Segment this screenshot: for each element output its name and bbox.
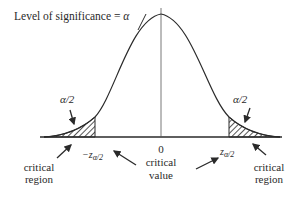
right-region-label-line2: region — [255, 173, 284, 185]
left-region-arrow — [57, 145, 71, 158]
left-critical-region-shading — [44, 117, 95, 137]
normal-curve — [44, 14, 280, 137]
neg-z-subscript: α/2 — [93, 153, 103, 162]
right-region-label-line1: critical — [254, 161, 285, 173]
left-region-label-line2: region — [25, 173, 54, 185]
left-area-arrow — [70, 110, 74, 124]
pos-z-subscript: α/2 — [224, 150, 234, 159]
neg-z-arrow — [114, 151, 136, 165]
z-critical-label: zα/2 — [219, 146, 234, 159]
right-region-arrow — [253, 144, 266, 155]
neg-z: −z — [82, 149, 93, 160]
neg-z-critical-label: −zα/2 — [82, 149, 103, 162]
left-area-label: α/2 — [60, 93, 75, 105]
right-area-arrow — [245, 108, 250, 122]
critical-value-line2: value — [149, 169, 173, 181]
right-critical-region-shading — [229, 117, 280, 137]
left-region-label-line1: critical — [24, 161, 55, 173]
title-text: Level of significance = — [14, 10, 123, 23]
critical-value-line1: critical — [146, 156, 177, 168]
title: Level of significance = α — [14, 10, 130, 23]
zero-label: 0 — [158, 143, 164, 155]
right-area-label: α/2 — [233, 93, 248, 105]
pos-z-arrow — [196, 158, 218, 169]
normal-distribution-diagram: Level of significance = α α/2 α/2 critic… — [0, 0, 297, 197]
alpha-symbol: α — [123, 10, 130, 22]
